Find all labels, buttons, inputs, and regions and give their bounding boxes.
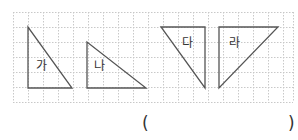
close-parenthesis: ) bbox=[288, 115, 295, 132]
triangle-label-da: 다 bbox=[182, 37, 193, 49]
dotted-grid bbox=[13, 12, 294, 103]
triangle-label-ga: 가 bbox=[36, 60, 47, 72]
triangle-label-na: 나 bbox=[94, 60, 105, 72]
answer-blank[interactable]: ( ) bbox=[140, 114, 296, 136]
triangle-grid-figure bbox=[0, 0, 298, 110]
triangle-label-ra: 라 bbox=[229, 37, 240, 49]
open-parenthesis: ( bbox=[142, 115, 149, 132]
